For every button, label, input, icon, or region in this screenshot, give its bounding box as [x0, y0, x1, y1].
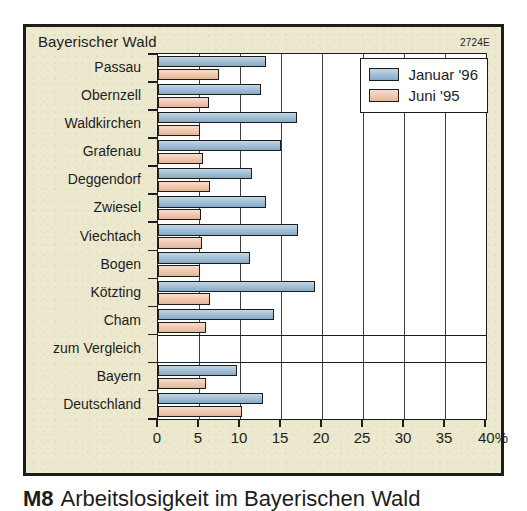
- x-axis-label: 10: [231, 429, 248, 446]
- bar-januar-96: [158, 393, 263, 404]
- bar-januar-96: [158, 112, 297, 123]
- figure-caption: M8Arbeitslosigkeit im Bayerischen Wald: [23, 486, 523, 511]
- x-axis-tick: [484, 420, 486, 427]
- bar-januar-96: [158, 309, 274, 320]
- bar-januar-96: [158, 281, 315, 292]
- bar-januar-96: [158, 140, 281, 151]
- bar-juni-95: [158, 125, 200, 136]
- chart-row: [158, 363, 486, 391]
- x-axis-tick: [402, 420, 404, 427]
- y-axis-tick: [148, 306, 157, 308]
- bar-juni-95: [158, 378, 206, 389]
- chart-row: [158, 222, 486, 250]
- y-axis-label-viechtach: Viechtach: [26, 228, 141, 244]
- bar-juni-95: [158, 406, 242, 417]
- y-axis-label-bogen: Bogen: [26, 256, 141, 272]
- chart-row: [158, 251, 486, 279]
- x-axis-tick: [320, 420, 322, 427]
- x-axis-label: 0: [153, 429, 161, 446]
- chart-row: [158, 110, 486, 138]
- chart-legend: Januar '96 Juni '95: [360, 58, 488, 113]
- bar-juni-95: [158, 181, 210, 192]
- caption-number: M8: [23, 486, 54, 511]
- x-axis-label: 25: [354, 429, 371, 446]
- bar-juni-95: [158, 97, 209, 108]
- chart-row: [158, 279, 486, 307]
- bar-januar-96: [158, 252, 250, 263]
- y-axis-label-k-tzting: Kötzting: [26, 284, 141, 300]
- y-axis-tick: [148, 250, 157, 252]
- bar-juni-95: [158, 265, 200, 276]
- y-axis-tick: [148, 390, 157, 392]
- bar-januar-96: [158, 56, 266, 67]
- bar-juni-95: [158, 237, 202, 248]
- chart-code: 2724E: [460, 37, 490, 48]
- x-axis-tick: [443, 420, 445, 427]
- y-axis-tick: [148, 165, 157, 167]
- x-axis-tick: [156, 420, 158, 427]
- x-axis-tick: [197, 420, 199, 427]
- chart-row: [158, 166, 486, 194]
- x-axis-tick: [238, 420, 240, 427]
- chart-row: [158, 138, 486, 166]
- bar-januar-96: [158, 84, 261, 95]
- y-axis-tick: [148, 278, 157, 280]
- bar-juni-95: [158, 293, 210, 304]
- y-axis-tick: [148, 137, 157, 139]
- y-axis-tick: [148, 221, 157, 223]
- bar-januar-96: [158, 224, 298, 235]
- x-axis-label: 30: [395, 429, 412, 446]
- chart-title: Bayerischer Wald: [38, 33, 157, 50]
- y-axis-label-waldkirchen: Waldkirchen: [26, 115, 141, 131]
- y-axis-label-deutschland: Deutschland: [26, 396, 141, 412]
- chart-row: [158, 335, 486, 363]
- y-axis-tick: [148, 334, 157, 336]
- y-axis-tick: [148, 81, 157, 83]
- bar-juni-95: [158, 322, 206, 333]
- x-axis-label: 5: [194, 429, 202, 446]
- y-axis-label-deggendorf: Deggendorf: [26, 171, 141, 187]
- caption-text: Arbeitslosigkeit im Bayerischen Wald: [61, 486, 421, 511]
- bar-januar-96: [158, 168, 252, 179]
- y-axis-tick: [148, 109, 157, 111]
- y-axis-tick: [148, 53, 157, 55]
- y-axis-label-bayern: Bayern: [26, 368, 141, 384]
- y-axis-tick: [148, 362, 157, 364]
- chart-row: [158, 391, 486, 419]
- y-axis-label-cham: Cham: [26, 312, 141, 328]
- bar-januar-96: [158, 196, 266, 207]
- y-axis-label-passau: Passau: [26, 59, 141, 75]
- chart-row: [158, 307, 486, 335]
- chart-figure: Bayerischer Wald 2724E PassauObernzellWa…: [23, 24, 504, 476]
- y-axis-tick: [148, 193, 157, 195]
- legend-label-januar: Januar '96: [408, 66, 478, 83]
- x-axis-label: 15: [272, 429, 289, 446]
- x-axis-label: 20: [313, 429, 330, 446]
- x-axis-label: 35: [436, 429, 453, 446]
- bar-juni-95: [158, 209, 201, 220]
- x-axis-label: 40%: [478, 429, 508, 446]
- x-axis-tick: [279, 420, 281, 427]
- bar-juni-95: [158, 153, 203, 164]
- legend-swatch-juni-icon: [369, 89, 399, 102]
- y-axis-label-grafenau: Grafenau: [26, 143, 141, 159]
- bar-juni-95: [158, 69, 219, 80]
- legend-item-januar: Januar '96: [369, 64, 478, 85]
- x-axis-tick: [361, 420, 363, 427]
- y-axis-label-zwiesel: Zwiesel: [26, 199, 141, 215]
- legend-swatch-januar-icon: [369, 68, 399, 81]
- legend-label-juni: Juni '95: [408, 87, 459, 104]
- legend-item-juni: Juni '95: [369, 85, 478, 106]
- bar-januar-96: [158, 365, 237, 376]
- y-axis-label-obernzell: Obernzell: [26, 87, 141, 103]
- y-axis-label-zum-vergleich: zum Vergleich: [26, 340, 141, 356]
- chart-row: [158, 194, 486, 222]
